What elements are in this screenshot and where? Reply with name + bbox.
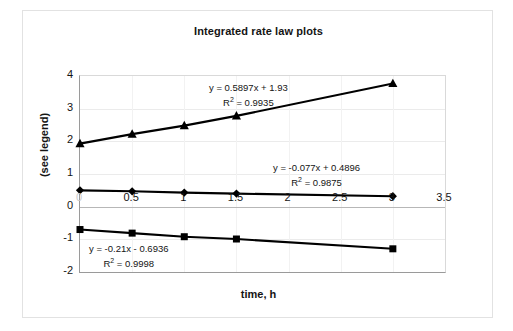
y-axis-tick-label: 2 <box>43 133 73 145</box>
x-axis-tick-label: 1 <box>166 191 200 203</box>
annotation-square-series: y = -0.21x - 0.6936R2 = 0.9998 <box>89 242 168 271</box>
x-axis-tick-label: 0 <box>62 191 96 203</box>
chart-frame: Integrated rate law plots (see legend) t… <box>22 10 493 318</box>
x-axis-tick-label: 3.5 <box>427 191 461 203</box>
y-axis-tick-label: -1 <box>43 231 73 243</box>
y-axis-tick-label: -2 <box>43 264 73 276</box>
x-axis-tick-label: 3 <box>375 191 409 203</box>
fit-r2-text: R2 = 0.9935 <box>209 95 288 110</box>
y-axis-tick-label: 4 <box>43 68 73 80</box>
fit-equation-text: y = -0.077x + 0.4896 <box>273 161 360 175</box>
square-marker <box>77 226 84 233</box>
fit-equation-text: y = 0.5897x + 1.93 <box>209 81 288 95</box>
x-axis-tick-label: 0.5 <box>114 191 148 203</box>
fit-equation-text: y = -0.21x - 0.6936 <box>89 242 168 256</box>
triangle-marker <box>388 79 397 87</box>
square-marker <box>233 236 240 243</box>
square-marker <box>129 230 136 237</box>
square-marker <box>389 245 396 252</box>
annotation-diamond-series: y = -0.077x + 0.4896R2 = 0.9875 <box>273 161 360 190</box>
y-axis-tick-label: 3 <box>43 101 73 113</box>
x-axis-title: time, h <box>23 288 494 300</box>
square-marker <box>181 233 188 240</box>
y-axis-tick-label: 1 <box>43 166 73 178</box>
x-axis-tick-label: 2.5 <box>323 191 357 203</box>
x-axis-tick-label: 2 <box>271 191 305 203</box>
fit-r2-text: R2 = 0.9998 <box>89 256 168 271</box>
fit-r2-text: R2 = 0.9875 <box>273 175 360 190</box>
chart-title: Integrated rate law plots <box>23 25 494 37</box>
annotation-triangle-series: y = 0.5897x + 1.93R2 = 0.9935 <box>209 81 288 110</box>
x-axis-tick-label: 1.5 <box>218 191 252 203</box>
chart-screenshot: Integrated rate law plots (see legend) t… <box>0 0 513 331</box>
